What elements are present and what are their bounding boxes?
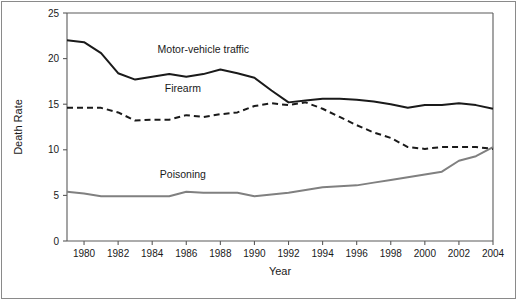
series-label-2: Poisoning <box>160 168 206 180</box>
x-tick-label: 2002 <box>448 248 471 259</box>
series-line-0 <box>67 40 493 108</box>
series-label-0: Motor-vehicle traffic <box>158 43 249 55</box>
x-tick-label: 1994 <box>311 248 334 259</box>
x-tick-label: 1986 <box>175 248 198 259</box>
y-axis-title: Death Rate <box>12 99 24 155</box>
chart-figure: 0510152025198019821984198619881990199219… <box>0 0 519 302</box>
y-tick-label: 0 <box>53 236 59 247</box>
x-axis-title: Year <box>269 265 292 277</box>
y-tick-label: 25 <box>48 8 60 19</box>
x-tick-label: 1992 <box>277 248 300 259</box>
x-tick-label: 1988 <box>209 248 232 259</box>
x-tick-label: 1990 <box>243 248 266 259</box>
y-tick-label: 5 <box>53 190 59 201</box>
line-chart: 0510152025198019821984198619881990199219… <box>0 0 519 302</box>
x-tick-label: 1982 <box>107 248 130 259</box>
x-tick-label: 1998 <box>380 248 403 259</box>
y-tick-label: 15 <box>48 99 60 110</box>
x-tick-label: 2004 <box>482 248 505 259</box>
series-line-1 <box>67 102 493 149</box>
x-tick-label: 1996 <box>346 248 369 259</box>
series-label-1: Firearm <box>165 82 201 94</box>
x-tick-label: 2000 <box>414 248 437 259</box>
y-tick-label: 10 <box>48 144 60 155</box>
series-line-2 <box>67 147 493 196</box>
y-tick-label: 20 <box>48 53 60 64</box>
x-tick-label: 1984 <box>141 248 164 259</box>
x-tick-label: 1980 <box>73 248 96 259</box>
